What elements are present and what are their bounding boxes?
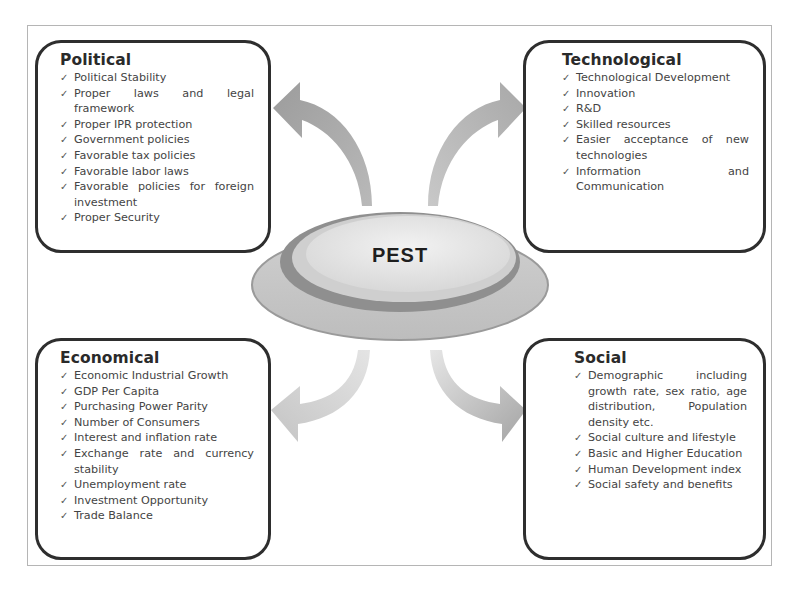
check-icon: ✓ [574,462,582,478]
list-item: ✓Favorable tax policies [60,148,254,164]
social-title: Social [574,349,747,367]
list-item: ✓Demographic including growth rate, sex … [574,368,747,430]
list-item: ✓Investment Opportunity [60,493,254,509]
check-icon: ✓ [60,70,68,86]
list-item: ✓Proper Security [60,210,254,226]
check-icon: ✓ [562,132,570,148]
list-item: ✓Technological Development [562,70,749,86]
check-icon: ✓ [60,179,68,195]
list-item: ✓Exchange rate and currency stability [60,446,254,477]
political-list: ✓Political Stability ✓Proper laws and le… [60,70,254,226]
political-box: Political ✓Political Stability ✓Proper l… [35,40,271,253]
political-title: Political [60,51,254,69]
list-item: ✓Government policies [60,132,254,148]
pest-center-label: PEST [340,244,460,267]
list-item: ✓Innovation [562,86,749,102]
check-icon: ✓ [574,446,582,462]
check-icon: ✓ [574,368,582,384]
check-icon: ✓ [60,508,68,524]
list-item: ✓Unemployment rate [60,477,254,493]
check-icon: ✓ [562,164,570,180]
list-item: ✓Trade Balance [60,508,254,524]
check-icon: ✓ [562,70,570,86]
list-item: ✓Social safety and benefits [574,477,747,493]
check-icon: ✓ [60,399,68,415]
list-item: ✓Easier acceptance of new technologies [562,132,749,163]
check-icon: ✓ [562,86,570,102]
check-icon: ✓ [574,477,582,493]
list-item: ✓Economic Industrial Growth [60,368,254,384]
list-item: ✓Proper laws and legal framework [60,86,254,117]
list-item: ✓Skilled resources [562,117,749,133]
list-item: ✓Number of Consumers [60,415,254,431]
economical-title: Economical [60,349,254,367]
check-icon: ✓ [60,132,68,148]
check-icon: ✓ [60,117,68,133]
social-list: ✓Demographic including growth rate, sex … [574,368,747,493]
technological-list: ✓Technological Development ✓Innovation ✓… [562,70,749,195]
check-icon: ✓ [60,384,68,400]
list-item: ✓Political Stability [60,70,254,86]
check-icon: ✓ [574,430,582,446]
list-item: ✓Favorable policies for foreign investme… [60,179,254,210]
check-icon: ✓ [60,493,68,509]
list-item: ✓Purchasing Power Parity [60,399,254,415]
technological-title: Technological [562,51,749,69]
check-icon: ✓ [562,101,570,117]
economical-box: Economical ✓Economic Industrial Growth ✓… [35,338,271,560]
check-icon: ✓ [60,164,68,180]
check-icon: ✓ [60,368,68,384]
check-icon: ✓ [60,477,68,493]
check-icon: ✓ [60,415,68,431]
list-item: ✓Human Development index [574,462,747,478]
list-item: ✓Favorable labor laws [60,164,254,180]
social-box: Social ✓Demographic including growth rat… [523,338,766,560]
check-icon: ✓ [60,86,68,102]
list-item: ✓R&D [562,101,749,117]
technological-box: Technological ✓Technological Development… [523,40,766,253]
check-icon: ✓ [60,446,68,462]
check-icon: ✓ [60,430,68,446]
check-icon: ✓ [60,148,68,164]
check-icon: ✓ [60,210,68,226]
list-item: ✓Social culture and lifestyle [574,430,747,446]
list-item: ✓Interest and inflation rate [60,430,254,446]
list-item: ✓GDP Per Capita [60,384,254,400]
list-item: ✓Information and Communication [562,164,749,195]
list-item: ✓Proper IPR protection [60,117,254,133]
check-icon: ✓ [562,117,570,133]
economical-list: ✓Economic Industrial Growth ✓GDP Per Cap… [60,368,254,524]
list-item: ✓Basic and Higher Education [574,446,747,462]
